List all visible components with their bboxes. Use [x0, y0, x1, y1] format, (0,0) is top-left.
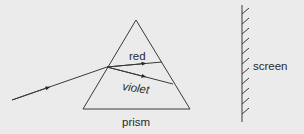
violet-label: violet [122, 80, 151, 96]
screen [242, 5, 249, 122]
screen-hatching [242, 8, 249, 114]
screen-label: screen [253, 60, 288, 72]
red-label: red [129, 50, 146, 62]
incident-ray [12, 67, 107, 100]
prism-label: prism [122, 116, 150, 128]
prism-dispersion-diagram: red violet prism screen [0, 0, 304, 134]
red-ray [107, 62, 162, 67]
